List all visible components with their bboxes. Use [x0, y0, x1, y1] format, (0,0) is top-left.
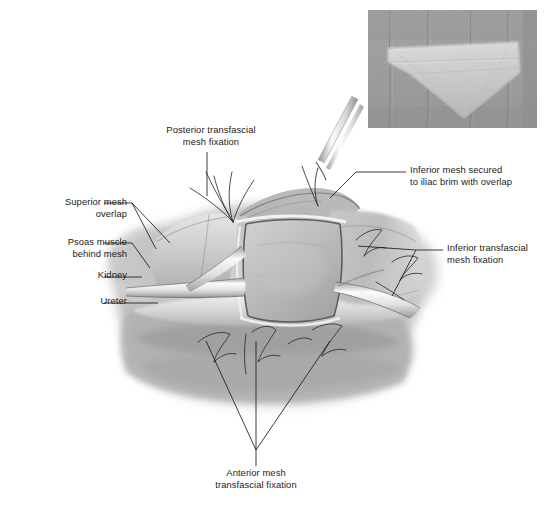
label-posterior-transfascial-mesh-fixation: Posterior transfascial mesh fixation [146, 124, 276, 147]
label-anterior-mesh-transfascial-fixation: Anterior mesh transfascial fixation [189, 467, 323, 490]
label-ureter: Ureter [7, 295, 127, 307]
suture-passer-instrument [316, 96, 364, 180]
surgical-illustration-figure: Superior mesh overlap Psoas muscle behin… [0, 0, 551, 506]
label-inferior-transfascial-mesh-fixation: Inferior transfascial mesh fixation [447, 242, 551, 265]
photograph-content [368, 10, 537, 128]
label-inferior-mesh-secured-to-iliac-brim: Inferior mesh secured to iliac brim with… [410, 164, 550, 187]
label-superior-mesh-overlap: Superior mesh overlap [7, 196, 127, 219]
fascial-defect-window [243, 220, 342, 323]
label-psoas-muscle-behind-mesh: Psoas muscle behind mesh [7, 236, 127, 259]
label-kidney: Kidney [7, 269, 127, 281]
intraoperative-photograph [368, 10, 537, 128]
